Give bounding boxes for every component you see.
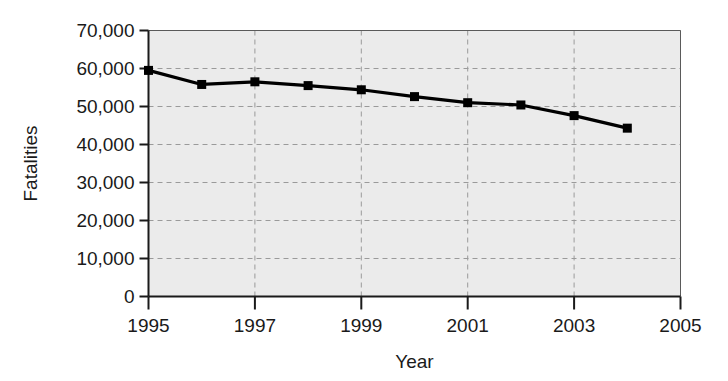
data-point-marker (623, 124, 632, 133)
y-tick-label: 70,000 (76, 20, 134, 41)
chart-figure: 010,00020,00030,00040,00050,00060,00070,… (0, 0, 728, 381)
data-point-marker (197, 80, 206, 89)
line-chart: 010,00020,00030,00040,00050,00060,00070,… (0, 0, 728, 381)
y-axis-ticks: 010,00020,00030,00040,00050,00060,00070,… (76, 20, 148, 307)
x-tick-label: 1997 (234, 315, 276, 336)
data-point-marker (570, 111, 579, 120)
plot-area-background (149, 31, 681, 297)
x-tick-label: 1995 (127, 315, 169, 336)
data-point-marker (357, 85, 366, 94)
x-tick-label: 2005 (659, 315, 701, 336)
x-tick-label: 2003 (553, 315, 595, 336)
y-axis-title: Fatalities (20, 125, 41, 201)
y-tick-label: 40,000 (76, 134, 134, 155)
data-point-marker (516, 100, 525, 109)
y-tick-label: 20,000 (76, 210, 134, 231)
data-point-marker (304, 81, 313, 90)
x-tick-label: 1999 (340, 315, 382, 336)
y-tick-label: 60,000 (76, 58, 134, 79)
x-axis-title: Year (395, 351, 434, 372)
x-tick-label: 2001 (447, 315, 489, 336)
data-point-marker (250, 77, 259, 86)
y-tick-label: 0 (124, 286, 135, 307)
data-point-marker (463, 98, 472, 107)
x-axis-ticks: 199519971999200120032005 (127, 297, 701, 336)
y-tick-label: 30,000 (76, 172, 134, 193)
y-tick-label: 50,000 (76, 96, 134, 117)
data-point-marker (410, 92, 419, 101)
y-tick-label: 10,000 (76, 248, 134, 269)
data-point-marker (144, 66, 153, 75)
